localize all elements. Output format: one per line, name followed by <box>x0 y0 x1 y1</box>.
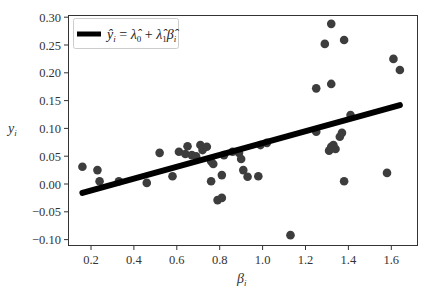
data-point <box>286 231 295 240</box>
y-axis: −0.10−0.050.000.050.100.150.200.250.30 <box>32 11 68 247</box>
data-point <box>168 172 177 181</box>
x-tick-label: 1.6 <box>383 253 399 267</box>
legend-label: ŷi = λ̂0 + λ̂1β̂i <box>105 27 180 44</box>
data-point <box>396 66 405 75</box>
x-tick-label: 0.8 <box>212 253 228 267</box>
x-axis: 0.20.40.60.81.01.21.41.6 <box>83 246 399 268</box>
x-tick-label: 0.4 <box>126 253 142 267</box>
data-point <box>183 142 192 151</box>
data-point <box>254 172 263 181</box>
x-tick-label: 0.6 <box>169 253 185 267</box>
data-point <box>203 142 212 151</box>
data-point <box>327 20 336 29</box>
y-tick-label: 0.00 <box>39 178 61 192</box>
data-point <box>340 36 349 45</box>
data-point <box>243 172 252 181</box>
plot-area <box>69 16 418 246</box>
x-axis-label: βi <box>236 271 247 288</box>
y-tick-label: 0.30 <box>39 11 61 25</box>
data-point <box>207 177 216 186</box>
data-point <box>142 179 151 188</box>
y-tick-label: −0.05 <box>32 205 61 219</box>
y-tick-label: 0.25 <box>39 39 61 53</box>
data-point <box>383 169 392 178</box>
x-tick-label: 0.2 <box>83 253 99 267</box>
y-axis-label: yi <box>6 121 17 138</box>
x-tick-label: 1.0 <box>255 253 271 267</box>
data-point <box>237 155 246 164</box>
data-point <box>340 177 349 186</box>
data-point <box>327 80 336 89</box>
scatter-chart: −0.10−0.050.000.050.100.150.200.250.30 0… <box>0 0 425 295</box>
y-tick-label: 0.10 <box>39 122 61 136</box>
data-point <box>218 194 227 203</box>
y-tick-label: 0.05 <box>39 150 61 164</box>
y-tick-label: 0.20 <box>39 66 61 80</box>
data-point <box>93 166 102 175</box>
data-point <box>389 55 398 64</box>
legend: ŷi = λ̂0 + λ̂1β̂i <box>74 19 180 49</box>
y-tick-label: −0.10 <box>32 233 61 247</box>
data-point <box>331 145 340 154</box>
data-point <box>338 129 347 138</box>
data-point <box>155 149 164 158</box>
x-tick-label: 1.4 <box>341 253 357 267</box>
data-point <box>209 160 218 169</box>
data-point <box>218 171 227 180</box>
y-tick-label: 0.15 <box>39 94 61 108</box>
data-point <box>78 162 87 171</box>
x-tick-label: 1.2 <box>298 253 314 267</box>
data-point <box>312 84 321 93</box>
data-point <box>321 40 330 49</box>
